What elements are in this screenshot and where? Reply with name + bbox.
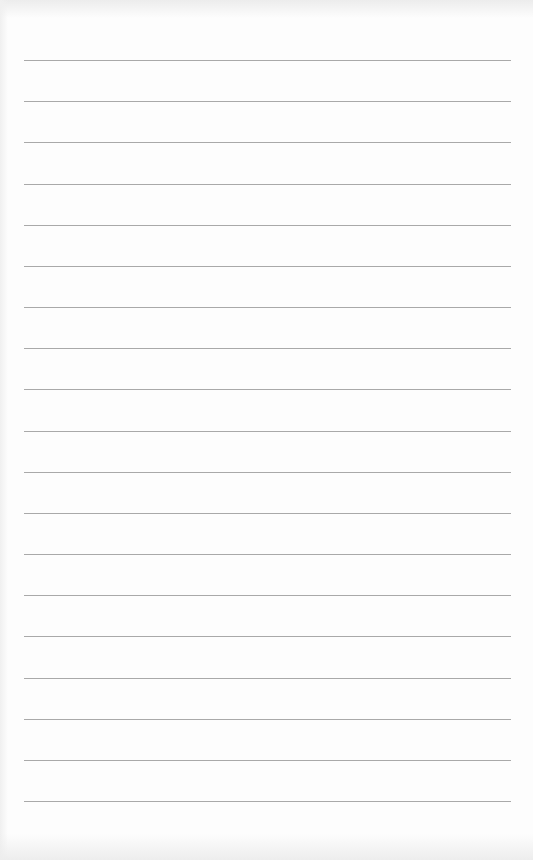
ruled-line — [24, 760, 511, 761]
ruled-line — [24, 554, 511, 555]
ruled-line — [24, 142, 511, 143]
ruled-line — [24, 225, 511, 226]
ruled-line — [24, 431, 511, 432]
ruled-line — [24, 307, 511, 308]
ruled-line — [24, 636, 511, 637]
ruled-line — [24, 348, 511, 349]
ruled-line — [24, 60, 511, 61]
ruled-line — [24, 513, 511, 514]
ruled-line — [24, 472, 511, 473]
bottom-edge-shadow — [0, 834, 533, 860]
top-edge-shadow — [0, 0, 533, 18]
left-edge-shadow — [0, 0, 8, 860]
ruled-line — [24, 678, 511, 679]
ruled-line — [24, 719, 511, 720]
ruled-line — [24, 101, 511, 102]
lined-paper-sheet — [0, 0, 533, 860]
ruled-line — [24, 184, 511, 185]
ruled-line — [24, 266, 511, 267]
ruled-line — [24, 595, 511, 596]
ruled-line — [24, 389, 511, 390]
ruled-line — [24, 801, 511, 802]
